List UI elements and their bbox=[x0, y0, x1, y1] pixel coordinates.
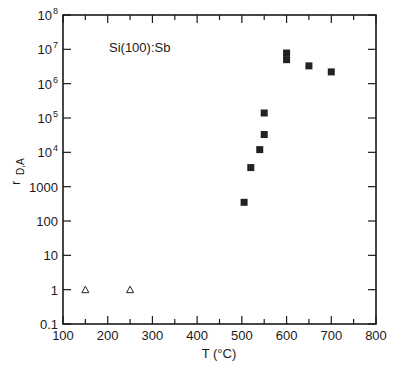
filled-square-marker bbox=[328, 68, 335, 75]
x-tick-label: 600 bbox=[276, 328, 298, 343]
y-tick-label: 0.1 bbox=[40, 317, 58, 332]
x-tick-label: 500 bbox=[231, 328, 253, 343]
y-axis-title-subscript: D,A bbox=[15, 158, 26, 175]
filled-square-marker bbox=[256, 146, 263, 153]
y-tick-label: 10 bbox=[38, 111, 52, 126]
y-tick-label-exponent: 7 bbox=[53, 40, 58, 50]
open-triangle-marker bbox=[82, 286, 89, 293]
axis-ticks bbox=[63, 15, 376, 324]
y-tick-labels: 0.11101001000104105106107108 bbox=[29, 6, 58, 332]
y-tick-label-exponent: 5 bbox=[53, 109, 58, 119]
filled-square-marker bbox=[283, 56, 290, 63]
y-tick-label: 100 bbox=[36, 214, 58, 229]
svg-text:r D,A: r D,A bbox=[8, 158, 26, 185]
y-axis-title-main: r bbox=[8, 180, 23, 185]
y-tick-label: 10 bbox=[38, 8, 52, 23]
y-tick-label-exponent: 4 bbox=[53, 143, 58, 153]
y-tick-label: 10 bbox=[44, 248, 58, 263]
x-tick-label: 800 bbox=[365, 328, 387, 343]
x-tick-label: 300 bbox=[142, 328, 164, 343]
y-tick-label-exponent: 6 bbox=[53, 75, 58, 85]
y-tick-label: 10 bbox=[38, 42, 52, 57]
x-axis-title: T (°C) bbox=[202, 346, 237, 361]
y-tick-label: 1 bbox=[51, 283, 58, 298]
y-axis-title: r D,A bbox=[8, 158, 26, 185]
filled-square-marker bbox=[305, 62, 312, 69]
scatter-plot: 100200300400500600700800 0.1110100100010… bbox=[0, 0, 396, 369]
x-tick-label: 700 bbox=[320, 328, 342, 343]
plot-frame bbox=[63, 15, 376, 324]
open-triangle-marker bbox=[127, 286, 134, 293]
chart-container: 100200300400500600700800 0.1110100100010… bbox=[0, 0, 396, 369]
x-tick-label: 400 bbox=[186, 328, 208, 343]
plot-border bbox=[63, 15, 376, 324]
sample-annotation: Si(100):Sb bbox=[109, 40, 170, 55]
y-tick-label: 10 bbox=[38, 145, 52, 160]
y-tick-label-exponent: 8 bbox=[53, 6, 58, 16]
filled-square-marker bbox=[241, 199, 248, 206]
x-tick-labels: 100200300400500600700800 bbox=[52, 328, 387, 343]
x-tick-label: 200 bbox=[97, 328, 119, 343]
filled-square-marker bbox=[247, 164, 254, 171]
y-tick-label: 10 bbox=[38, 77, 52, 92]
y-tick-label: 1000 bbox=[29, 180, 58, 195]
data-points bbox=[82, 50, 335, 293]
filled-square-marker bbox=[261, 109, 268, 116]
filled-square-marker bbox=[283, 50, 290, 57]
filled-square-marker bbox=[261, 131, 268, 138]
